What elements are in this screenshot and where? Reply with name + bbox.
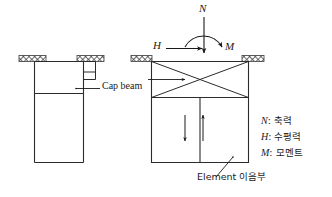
element-joint-label: Element 이음부 — [197, 172, 266, 182]
legend-item-axial: N: 축력 — [261, 116, 292, 126]
left-support-hatch-left — [19, 56, 46, 62]
right-support-hatch-right — [242, 56, 264, 62]
force-label-N: N — [199, 3, 206, 14]
left-support-hatch-right — [77, 56, 104, 62]
force-notation-group — [166, 17, 222, 53]
left-callout-hook — [84, 72, 96, 80]
force-label-H: H — [153, 40, 161, 51]
legend-item-horizontal: H: 수평력 — [261, 132, 301, 142]
right-support-hatch-left — [131, 56, 152, 62]
cap-beam-label: Cap beam — [102, 81, 142, 91]
diagram-canvas: N H M Cap beam Element 이음부 N: 축력 H: 수평력 … — [0, 0, 332, 197]
force-label-M: M — [225, 41, 234, 52]
left-notch-detail — [84, 62, 96, 73]
left-pier-outline — [35, 62, 84, 163]
legend-symbol-N: N — [261, 115, 268, 126]
legend-separator-1: : — [268, 131, 271, 142]
legend-item-moment: M: 모멘트 — [261, 148, 303, 158]
structural-diagram — [0, 0, 332, 197]
legend-separator-0: : — [268, 115, 271, 126]
legend-text-moment: 모멘트 — [276, 147, 303, 158]
legend-separator-2: : — [269, 147, 272, 158]
right-pier-outline — [152, 62, 249, 163]
legend-text-axial: 축력 — [274, 115, 292, 126]
left-figure-group — [19, 56, 104, 163]
legend-text-horizontal: 수평력 — [274, 131, 301, 142]
right-figure-group — [131, 56, 264, 178]
